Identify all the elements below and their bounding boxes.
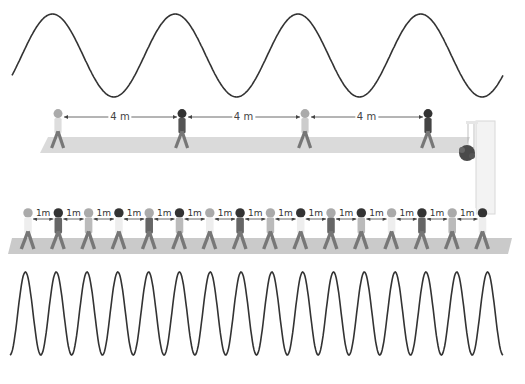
- bottom-sine-wave: [10, 272, 503, 355]
- spacing-label-1m: 1m: [35, 208, 52, 218]
- spacing-label-1m: 1m: [429, 208, 446, 218]
- top-walkway: [40, 137, 470, 153]
- spacing-label-1m: 1m: [186, 208, 203, 218]
- spacing-label-1m: 1m: [368, 208, 385, 218]
- spacing-label-4m: 4 m: [232, 111, 255, 122]
- top-sine-wave: [12, 14, 503, 97]
- spacing-label-4m: 4 m: [108, 111, 131, 122]
- spacing-label-1m: 1m: [126, 208, 143, 218]
- spacing-label-1m: 1m: [399, 208, 416, 218]
- door-frame-icon: [466, 121, 495, 214]
- spacing-label-1m: 1m: [247, 208, 264, 218]
- spacing-label-4m: 4 m: [355, 111, 378, 122]
- spacing-label-1m: 1m: [459, 208, 476, 218]
- diagram-canvas: [0, 0, 525, 384]
- spacing-label-1m: 1m: [308, 208, 325, 218]
- spacing-label-1m: 1m: [96, 208, 113, 218]
- spacing-label-1m: 1m: [156, 208, 173, 218]
- spacing-label-1m: 1m: [217, 208, 234, 218]
- hanging-plant-icon: [459, 145, 475, 161]
- wave-diagram: 4 m4 m4 m1m1m1m1m1m1m1m1m1m1m1m1m1m1m1m: [0, 0, 525, 384]
- spacing-label-1m: 1m: [65, 208, 82, 218]
- spacing-label-1m: 1m: [277, 208, 294, 218]
- spacing-label-1m: 1m: [338, 208, 355, 218]
